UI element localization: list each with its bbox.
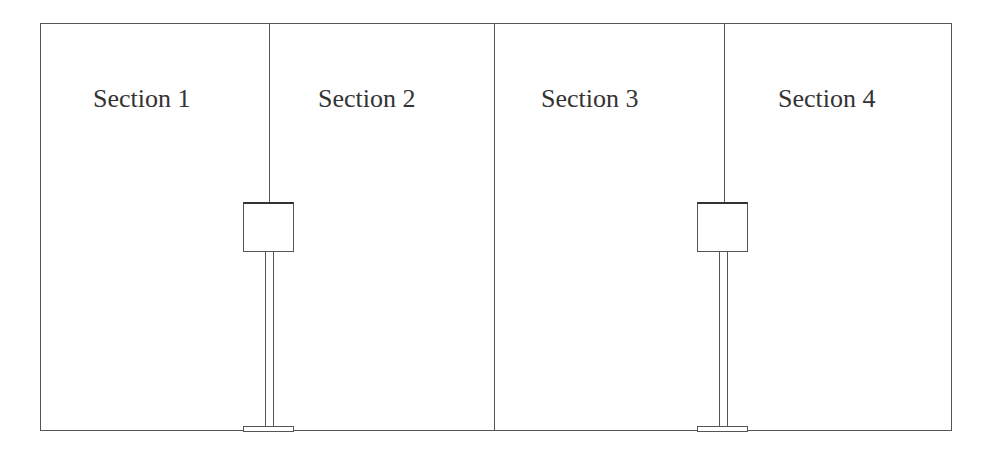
- post-1-box: [243, 202, 294, 252]
- post-1-base: [243, 426, 294, 432]
- section-1-label: Section 1: [93, 84, 191, 114]
- post-2-box: [697, 202, 748, 252]
- post-2-pole: [719, 252, 728, 426]
- center-divider: [494, 23, 495, 431]
- section-3-label: Section 3: [541, 84, 639, 114]
- section-4-label: Section 4: [778, 84, 876, 114]
- section-2-label: Section 2: [318, 84, 416, 114]
- divider-3-4: [724, 23, 725, 202]
- post-1-pole: [265, 252, 274, 426]
- divider-1-2: [269, 23, 270, 202]
- post-2-base: [697, 426, 748, 432]
